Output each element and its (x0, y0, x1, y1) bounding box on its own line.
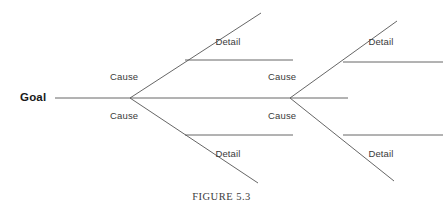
detail-label-upper-right: Detail (368, 36, 393, 47)
cause-label-upper-right: Cause (268, 71, 296, 82)
detail-label-upper-left: Detail (215, 36, 240, 47)
detail-label-lower-right: Detail (368, 148, 393, 159)
cause-label-upper-left: Cause (110, 71, 138, 82)
cause-bone-upper-left (130, 13, 261, 98)
cause-label-lower-left: Cause (110, 110, 138, 121)
figure-container: Goal Cause Detail Cause Detail Cause Det… (0, 0, 443, 210)
cause-bone-lower-left (130, 98, 258, 183)
cause-bone-upper-right (290, 21, 397, 98)
goal-label: Goal (20, 91, 46, 104)
figure-caption: FIGURE 5.3 (0, 191, 443, 203)
cause-bone-lower-right (290, 98, 394, 181)
fishbone-diagram-canvas (0, 0, 443, 210)
cause-label-lower-right: Cause (268, 110, 296, 121)
detail-label-lower-left: Detail (215, 148, 240, 159)
